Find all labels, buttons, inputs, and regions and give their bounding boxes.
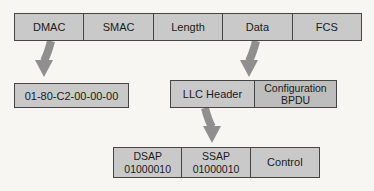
dsap-value: 01000010: [124, 163, 171, 176]
control-label: Control: [267, 156, 302, 169]
frame-field-smac: SMAC: [83, 14, 152, 40]
configuration-bpdu-line1: Configuration: [264, 82, 326, 94]
frame-field-fcs-label: FCS: [316, 21, 338, 34]
ssap-value: 01000010: [193, 163, 240, 176]
control-box: Control: [250, 148, 319, 177]
data-detail-row: LLC Header Configuration BPDU: [170, 80, 337, 108]
frame-field-dmac: DMAC: [15, 14, 83, 40]
dsap-label: DSAP: [133, 150, 162, 163]
ssap-label: SSAP: [202, 150, 230, 163]
dsap-box: DSAP 01000010: [114, 148, 181, 177]
dmac-address-value: 01-80-C2-00-00-00: [25, 90, 119, 102]
frame-format-diagram: DMAC SMAC Length Data FCS 01-80-C2-00-00…: [0, 0, 374, 191]
frame-field-data-label: Data: [246, 21, 269, 34]
ethernet-frame-row: DMAC SMAC Length Data FCS: [14, 13, 362, 41]
frame-field-fcs: FCS: [292, 14, 361, 40]
llc-down-arrow-icon: [196, 108, 222, 144]
configuration-bpdu-line2: BPDU: [281, 94, 310, 106]
frame-field-smac-label: SMAC: [103, 21, 135, 34]
frame-field-length-label: Length: [171, 21, 205, 34]
dmac-down-arrow-icon: [34, 41, 60, 78]
llc-detail-row: DSAP 01000010 SSAP 01000010 Control: [113, 147, 320, 178]
data-down-arrow-icon: [239, 41, 265, 78]
llc-header-box: LLC Header: [171, 81, 254, 107]
frame-field-dmac-label: DMAC: [33, 21, 65, 34]
configuration-bpdu-box: Configuration BPDU: [254, 81, 336, 107]
frame-field-data: Data: [222, 14, 291, 40]
llc-header-label: LLC Header: [183, 88, 242, 101]
frame-field-length: Length: [153, 14, 222, 40]
dmac-address-box: 01-80-C2-00-00-00: [14, 83, 129, 108]
ssap-box: SSAP 01000010: [181, 148, 249, 177]
